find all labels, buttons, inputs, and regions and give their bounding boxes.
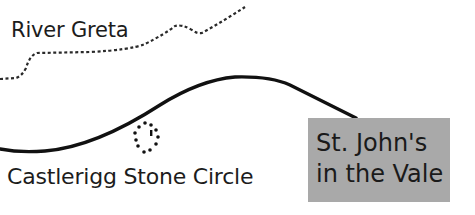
destination-label-line1: St. John's <box>316 128 450 159</box>
destination-label-line2: in the Vale <box>316 159 450 190</box>
stone-circle-icon <box>133 121 160 154</box>
destination-box: St. John's in the Vale <box>308 118 450 202</box>
road-path <box>0 77 356 152</box>
stone-circle-label: Castlerigg Stone Circle <box>7 166 253 188</box>
river-greta-label: River Greta <box>11 18 128 42</box>
